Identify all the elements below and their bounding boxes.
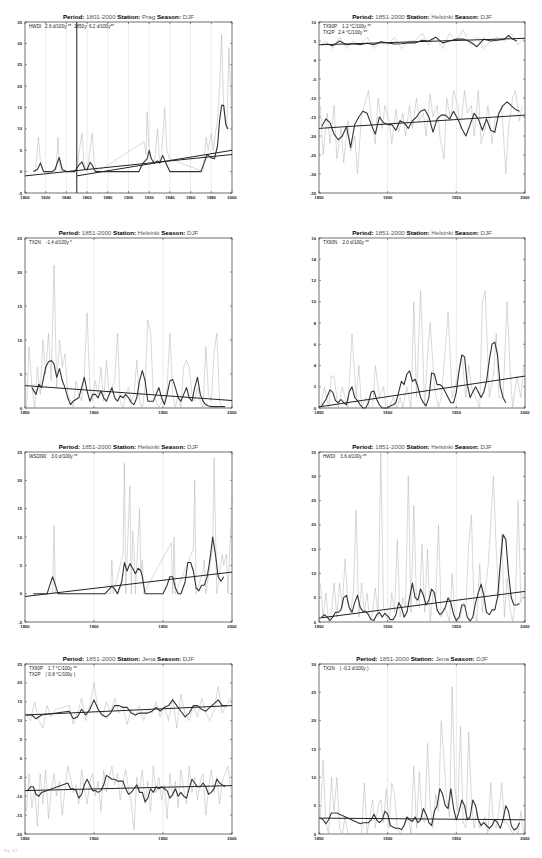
chart-legend: TX2N ( -0.2 d/100y ) [323, 666, 368, 672]
legend-entry: TX2N ( -0.2 d/100y ) [323, 666, 368, 672]
y-tick-label: 30 [311, 662, 316, 667]
y-tick-label: 15 [311, 747, 316, 752]
figure-caption: Fig. 3.2 [4, 848, 17, 853]
x-tick-label: 1900 [383, 836, 393, 841]
x-tick-label: 1850 [314, 836, 324, 841]
y-tick-label: 10 [311, 775, 316, 780]
y-tick-label: 25 [311, 690, 316, 695]
axes-frame [319, 664, 525, 834]
y-tick-label: 20 [311, 718, 316, 723]
y-tick-label: 5 [314, 803, 317, 808]
x-tick-label: 1950 [452, 836, 462, 841]
chart-plot-area: 1850190019502000051015202530 [0, 0, 542, 858]
series-tx2n-smoothed [320, 789, 519, 830]
x-tick-label: 2000 [520, 836, 530, 841]
